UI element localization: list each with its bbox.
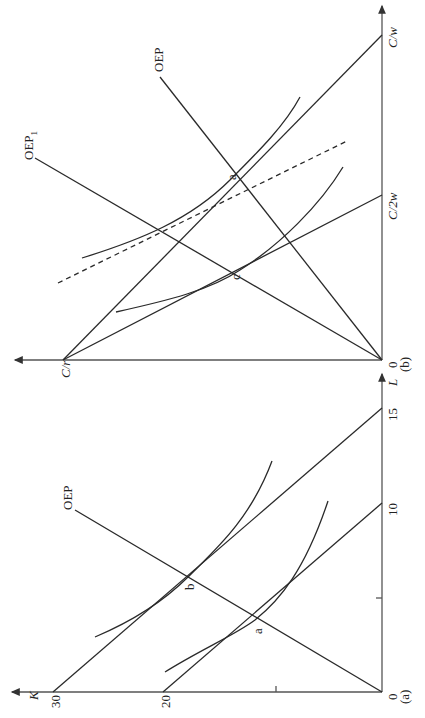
budget-line-20-10 bbox=[163, 503, 382, 692]
c-over-2w-label: C/2w bbox=[385, 192, 400, 220]
panel-b: C/r C/w C/2w 0 (b) OEP OEP1 a c bbox=[15, 6, 412, 378]
k-tick-30-label: 30 bbox=[48, 695, 63, 708]
oep1-label: OEP1 bbox=[21, 131, 39, 160]
isoquant-upper bbox=[82, 97, 300, 258]
c-over-w-label: C/w bbox=[385, 27, 400, 48]
l-tick-10-label: 10 bbox=[385, 503, 400, 516]
dashed-parallel-budget-line bbox=[58, 141, 347, 283]
panel-a: K 30 20 0 (a) 10 15 L OEP a b bbox=[12, 374, 412, 708]
expansion-path-diagram: C/r C/w C/2w 0 (b) OEP OEP1 a c K 30 20 … bbox=[0, 0, 425, 718]
point-b-label: b bbox=[182, 584, 197, 591]
l-tick-15-label: 15 bbox=[385, 408, 400, 421]
oep-line-a bbox=[75, 510, 382, 692]
budget-line-c-over-w bbox=[63, 35, 382, 360]
oep-label-b: OEP bbox=[151, 47, 166, 72]
oep1-line bbox=[35, 158, 382, 360]
k-tick-20-label: 20 bbox=[158, 695, 173, 708]
isoquant-lower bbox=[116, 167, 343, 312]
oep-line bbox=[160, 77, 382, 360]
budget-line-30-15 bbox=[53, 408, 382, 692]
k-axis-label: K bbox=[26, 690, 41, 701]
panel-b-tag: (b) bbox=[397, 357, 412, 372]
budget-line-c-over-2w bbox=[63, 195, 382, 360]
point-c-label: c bbox=[228, 274, 243, 280]
l-axis-label: L bbox=[385, 379, 400, 387]
panel-a-tag: (a) bbox=[397, 690, 412, 704]
point-a-label: a bbox=[250, 628, 265, 634]
point-a-label-b: a bbox=[224, 174, 239, 180]
c-over-r-label: C/r bbox=[58, 360, 73, 378]
oep-label-a: OEP bbox=[60, 485, 75, 510]
